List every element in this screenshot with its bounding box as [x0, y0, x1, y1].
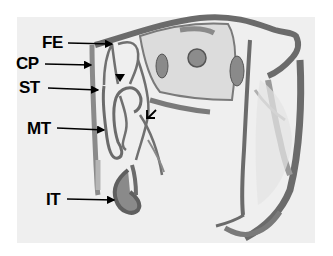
- arrow-st: [48, 88, 98, 90]
- open-arrow-icon: [147, 110, 156, 118]
- filled-arrowhead-icon: [115, 74, 125, 82]
- histology-figure: FE CP ST MT IT: [0, 0, 333, 256]
- label-arrows: [0, 0, 333, 256]
- arrow-it: [67, 199, 114, 200]
- arrow-mt: [57, 128, 104, 130]
- arrow-cp: [45, 64, 91, 65]
- arrow-fe: [68, 43, 112, 44]
